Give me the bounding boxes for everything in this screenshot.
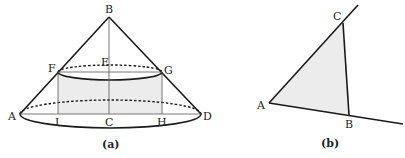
label-d: D <box>203 110 212 123</box>
caption-b: (b) <box>321 137 339 150</box>
label-c: C <box>105 116 113 129</box>
figure-canvas: B E F G A D I C H (a) C A B (b) <box>0 0 405 158</box>
label-b-b: B <box>345 118 353 131</box>
label-i: I <box>55 116 59 129</box>
top-ellipse-back <box>58 65 162 72</box>
label-b: B <box>105 3 113 16</box>
caption-a: (a) <box>102 138 120 151</box>
figure-a: B E F G A D I C H (a) <box>7 3 212 151</box>
label-h: H <box>157 116 167 129</box>
figure-b: C A B (b) <box>256 5 403 150</box>
label-b-a: A <box>256 99 266 112</box>
geometry-figure: B E F G A D I C H (a) C A B (b) <box>0 0 405 158</box>
label-a: A <box>7 110 17 123</box>
label-b-c: C <box>333 10 341 23</box>
label-f: F <box>48 62 56 75</box>
label-e: E <box>101 56 109 69</box>
triangle-shading <box>269 23 349 115</box>
label-g: G <box>164 64 173 77</box>
